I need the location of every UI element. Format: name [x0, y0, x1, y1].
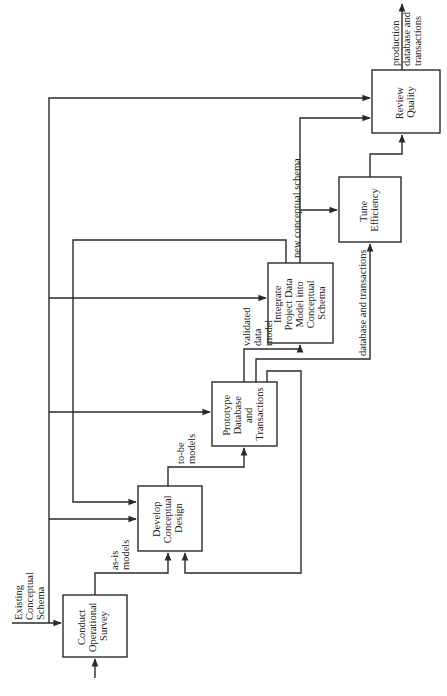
- existing-schema-feed-lines: [12, 98, 370, 678]
- label-existing-schema: Existing Conceptual Schema: [13, 570, 46, 620]
- label-new-conceptual-schema: new conceptual schema: [291, 158, 302, 258]
- flow-asis: [95, 553, 168, 595]
- box-develop-conceptual-design: Develop Conceptual Design: [138, 486, 202, 551]
- flow-tune-to-review: [370, 135, 402, 177]
- process-flow-diagram: Conduct Operational Survey Develop Conce…: [0, 0, 447, 696]
- label-asis-models: as-is models: [109, 540, 131, 570]
- flow-validated: [244, 345, 300, 382]
- box-integrate-project-data-model: Integrate Project Data Model into Concep…: [268, 263, 333, 343]
- box-conduct-operational-survey: Conduct Operational Survey: [63, 595, 127, 657]
- box-review-quality: Review Quality: [372, 70, 440, 133]
- svg-text:Review Quality: Review Quality: [394, 85, 416, 120]
- label-database-transactions: database and transactions: [357, 249, 368, 356]
- label-production-output: production database and transactions: [390, 9, 423, 66]
- label-tobe-models: to-be models: [175, 434, 197, 464]
- box-prototype-database: Prototype Database and Transactions: [212, 382, 277, 446]
- box-tune-efficiency: Tune Efficiency: [339, 177, 401, 242]
